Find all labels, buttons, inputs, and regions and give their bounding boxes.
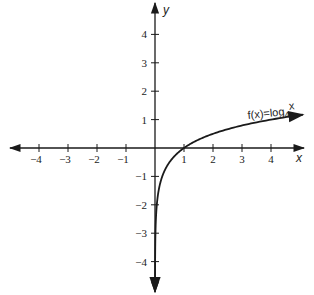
x-tick-label: 4 [268,153,274,165]
y-axis-label: y [162,3,170,17]
y-tick-label: 3 [142,57,148,69]
y-tick-label: 1 [142,114,148,126]
y-tick-label: 2 [142,85,148,97]
x-tick-label: −4 [30,153,42,165]
x-tick-label: −2 [88,153,100,165]
x-tick-label: 3 [239,153,245,165]
y-tick-label: −2 [135,199,147,211]
x-axis-label: x [295,151,303,165]
y-tick-label: 4 [142,28,148,40]
log-function-graph: −4−3−2−112344321−1−2−3−4 x y f(x)=log4x [0,0,314,295]
x-tick-label: 1 [181,153,187,165]
x-tick-label: −1 [117,153,129,165]
log-curve [155,115,303,292]
y-tick-label: −4 [135,256,147,268]
x-tick-label: 2 [210,153,216,165]
y-tick-label: −3 [135,227,147,239]
y-tick-label: −1 [135,170,147,182]
coordinate-plane: −4−3−2−112344321−1−2−3−4 x y f(x)=log4x [0,0,314,295]
axes [10,3,304,292]
x-tick-label: −3 [59,153,71,165]
